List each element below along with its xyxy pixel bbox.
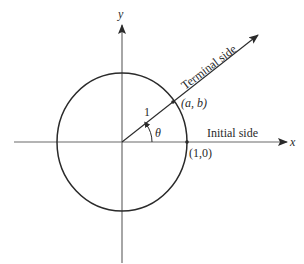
unit-circle-diagram: y x Terminal side Initial side 1 θ (a, b… — [0, 0, 304, 264]
point-ab-label: (a, b) — [181, 96, 207, 110]
initial-side-label: Initial side — [207, 126, 258, 140]
y-axis-label: y — [117, 7, 124, 21]
point-ab-dot — [171, 100, 175, 104]
x-axis-label: x — [289, 135, 296, 149]
radius-label: 1 — [144, 105, 150, 119]
point-10-label: (1,0) — [189, 146, 212, 160]
point-10-dot — [185, 140, 189, 144]
angle-arc — [146, 124, 152, 142]
terminal-side-label: Terminal side — [178, 42, 239, 93]
theta-label: θ — [155, 126, 161, 140]
